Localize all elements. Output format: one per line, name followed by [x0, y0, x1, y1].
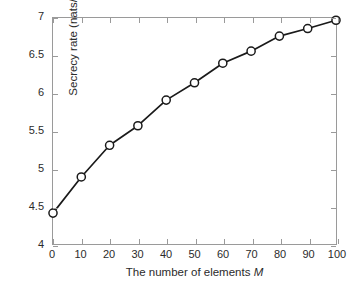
- x-tick-mark-top: [167, 18, 168, 23]
- y-axis-title: Secrecy rate (nats/s/Hz): [67, 0, 79, 96]
- y-tick-mark: [53, 132, 58, 133]
- x-axis-title: The number of elements M: [52, 266, 337, 278]
- y-tick-label: 5: [0, 163, 44, 174]
- y-tick-mark-right: [331, 94, 336, 95]
- y-axis-title-wrapper: Secrecy rate (nats/s/Hz): [65, 0, 81, 148]
- x-tick-mark-top: [338, 18, 339, 23]
- x-tick-mark-top: [139, 18, 140, 23]
- data-point-marker: [162, 96, 170, 104]
- y-tick-mark-right: [331, 208, 336, 209]
- y-tick-mark: [53, 208, 58, 209]
- y-tick-mark: [53, 246, 58, 247]
- x-tick-mark-top: [281, 18, 282, 23]
- y-tick-mark: [53, 18, 58, 19]
- y-tick-mark-right: [331, 18, 336, 19]
- y-tick-label: 7: [0, 11, 44, 22]
- y-tick-label: 5.5: [0, 125, 44, 136]
- y-tick-mark: [53, 56, 58, 57]
- x-tick-mark: [53, 239, 54, 244]
- x-tick-mark-top: [253, 18, 254, 23]
- data-point-marker: [247, 47, 255, 55]
- y-tick-label: 6.5: [0, 49, 44, 60]
- data-point-marker: [219, 59, 227, 67]
- x-axis-title-symbol: M: [254, 266, 264, 278]
- x-tick-mark: [139, 239, 140, 244]
- data-point-marker: [304, 24, 312, 32]
- y-tick-label: 4.5: [0, 201, 44, 212]
- y-tick-mark-right: [331, 246, 336, 247]
- x-tick-mark-top: [310, 18, 311, 23]
- x-tick-label: 100: [317, 248, 356, 260]
- x-tick-mark: [281, 239, 282, 244]
- x-tick-mark: [167, 239, 168, 244]
- y-tick-mark: [53, 170, 58, 171]
- y-tick-mark: [53, 94, 58, 95]
- x-tick-mark: [253, 239, 254, 244]
- y-tick-label: 4: [0, 239, 44, 250]
- data-point-marker: [49, 209, 57, 217]
- x-tick-mark-top: [224, 18, 225, 23]
- x-tick-mark-top: [110, 18, 111, 23]
- x-tick-mark-top: [82, 18, 83, 23]
- data-point-marker: [275, 32, 283, 40]
- y-tick-mark-right: [331, 56, 336, 57]
- x-tick-mark: [110, 239, 111, 244]
- x-tick-mark: [338, 239, 339, 244]
- data-point-marker: [134, 122, 142, 130]
- y-tick-mark-right: [331, 170, 336, 171]
- data-point-marker: [190, 79, 198, 87]
- x-tick-mark: [224, 239, 225, 244]
- y-tick-label: 6: [0, 87, 44, 98]
- y-tick-mark-right: [331, 132, 336, 133]
- data-point-marker: [77, 173, 85, 181]
- x-tick-mark: [196, 239, 197, 244]
- x-tick-mark-top: [196, 18, 197, 23]
- series-line: [53, 20, 336, 213]
- x-tick-mark: [82, 239, 83, 244]
- data-point-marker: [106, 141, 114, 149]
- figure-canvas: 0102030405060708090100 44.555.566.57 The…: [0, 0, 356, 289]
- x-tick-mark: [310, 239, 311, 244]
- series-layer: [53, 18, 336, 244]
- x-axis-title-text: The number of elements: [126, 266, 254, 278]
- plot-axes-area: [52, 17, 337, 245]
